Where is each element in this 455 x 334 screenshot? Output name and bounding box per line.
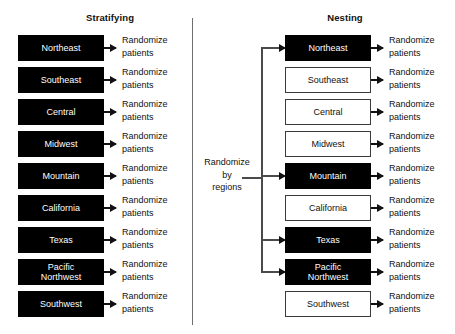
arrow-right-icon — [371, 303, 383, 305]
region-box-central[interactable]: Central — [285, 99, 371, 125]
arrow-right-icon — [371, 143, 383, 145]
randomize-patients-label: Randomizepatients — [389, 194, 435, 220]
region-box-southeast[interactable]: Southeast — [285, 67, 371, 93]
region-row: SoutheastRandomizepatients — [0, 67, 455, 93]
arrow-right-icon — [371, 271, 383, 273]
region-box-texas[interactable]: Texas — [285, 227, 371, 253]
randomize-patients-label: Randomizepatients — [389, 290, 435, 316]
panel-title-stratifying: Stratifying — [58, 12, 162, 23]
randomize-patients-label: Randomizepatients — [389, 66, 435, 92]
region-row: PacificNorthwestRandomizepatients — [0, 259, 455, 285]
region-box-mountain[interactable]: Mountain — [285, 163, 371, 189]
region-row: MidwestRandomizepatients — [0, 131, 455, 157]
randomize-by-regions-label: Randomizebyregions — [196, 156, 258, 194]
randomize-patients-label: Randomizepatients — [389, 226, 435, 252]
region-row: NortheastRandomizepatients — [0, 35, 455, 61]
region-box-california[interactable]: California — [285, 195, 371, 221]
region-row: CaliforniaRandomizepatients — [0, 195, 455, 221]
panel-title-nesting: Nesting — [293, 12, 397, 23]
region-box-pacific-northwest[interactable]: PacificNorthwest — [285, 259, 371, 285]
arrow-right-icon — [371, 175, 383, 177]
randomize-patients-label: Randomizepatients — [389, 258, 435, 284]
region-row: CentralRandomizepatients — [0, 99, 455, 125]
randomize-patients-label: Randomizepatients — [389, 130, 435, 156]
arrow-right-icon — [371, 47, 383, 49]
region-box-southwest[interactable]: Southwest — [285, 291, 371, 317]
arrow-right-icon — [371, 111, 383, 113]
arrow-right-icon — [371, 207, 383, 209]
arrow-right-icon — [371, 79, 383, 81]
randomize-patients-label: Randomizepatients — [389, 98, 435, 124]
randomize-patients-label: Randomizepatients — [389, 162, 435, 188]
region-box-midwest[interactable]: Midwest — [285, 131, 371, 157]
branch-arrow-icon — [261, 271, 285, 273]
region-box-northeast[interactable]: Northeast — [285, 35, 371, 61]
region-row: SouthwestRandomizepatients — [0, 291, 455, 317]
region-row: TexasRandomizepatients — [0, 227, 455, 253]
branch-arrow-icon — [261, 239, 285, 241]
arrow-right-icon — [371, 239, 383, 241]
branch-arrow-icon — [261, 175, 285, 177]
randomize-patients-label: Randomizepatients — [389, 34, 435, 60]
branch-arrow-icon — [261, 47, 285, 49]
randomize-by-regions-stem — [242, 177, 263, 179]
randomization-design-diagram: Stratifying Nesting NortheastRandomizepa… — [0, 0, 455, 334]
